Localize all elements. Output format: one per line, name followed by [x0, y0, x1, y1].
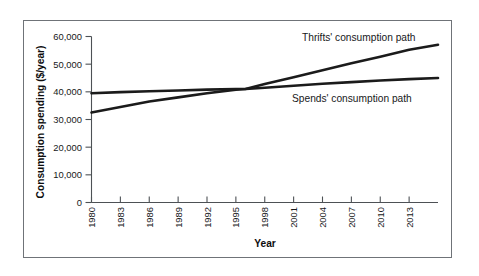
y-tick-label: 10,000: [53, 169, 82, 180]
x-tick-label-group: 1980198319861989199219951998200120042007…: [86, 207, 415, 228]
y-tick-label: 60,000: [53, 31, 82, 42]
x-tick-label: 2013: [404, 207, 415, 228]
figure-root: 010,00020,00030,00040,00050,00060,000 19…: [0, 0, 479, 276]
series-line-spends: [92, 78, 439, 93]
annotation-thrifts-label: Thrifts' consumption path: [302, 32, 416, 43]
x-tick-label: 1998: [259, 207, 270, 228]
x-tick-label: 1989: [173, 207, 184, 228]
x-tick-label: 1995: [230, 207, 241, 228]
x-tick-label: 1992: [202, 207, 213, 228]
x-tick-label: 1980: [86, 207, 97, 228]
y-tick-label: 0: [77, 197, 82, 208]
y-axis-title: Consumption spending ($/year): [35, 46, 46, 199]
x-tick-group: [92, 197, 410, 203]
x-axis-title: Year: [254, 238, 276, 249]
annotation-spends-label: Spends' consumption path: [292, 93, 412, 104]
y-tick-label: 30,000: [53, 114, 82, 125]
x-tick-label: 2010: [375, 207, 386, 228]
y-tick-label: 50,000: [53, 59, 82, 70]
y-tick-label: 20,000: [53, 142, 82, 153]
y-tick-group: [86, 37, 92, 203]
x-tick-label: 1983: [115, 207, 126, 228]
y-tick-label-group: 010,00020,00030,00040,00050,00060,000: [53, 31, 82, 208]
line-chart: 010,00020,00030,00040,00050,00060,000 19…: [0, 0, 479, 276]
x-tick-label: 2001: [288, 207, 299, 228]
y-tick-label: 40,000: [53, 86, 82, 97]
x-tick-label: 2004: [317, 207, 328, 228]
x-tick-label: 2007: [346, 207, 357, 228]
x-tick-label: 1986: [144, 207, 155, 228]
